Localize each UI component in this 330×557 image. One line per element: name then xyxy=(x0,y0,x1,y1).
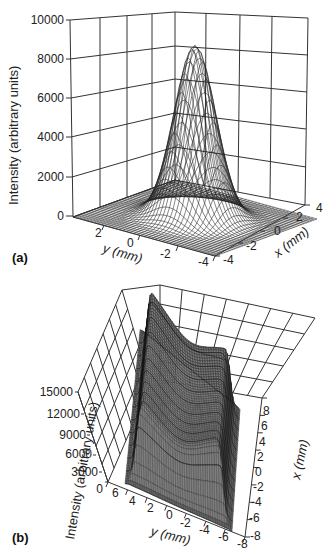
chart-a-ztick: 10000 xyxy=(31,13,65,27)
chart-b-ytick: -4 xyxy=(199,523,210,537)
chart-a-zlabel: Intensity (arbitrary units) xyxy=(6,66,21,205)
chart-b-ytick: -2 xyxy=(180,516,191,530)
chart-a-ztick: 4000 xyxy=(37,130,64,144)
chart-b-ytick: 0 xyxy=(166,508,173,522)
chart-b: 15000 12000 9000 6000 3000 0 Intensity (… xyxy=(12,285,315,551)
chart-b-ytick: 2 xyxy=(147,501,154,515)
chart-b-xtick: 4 xyxy=(259,435,266,449)
chart-a-ztick: 2000 xyxy=(37,170,64,184)
chart-b-xtick: 0 xyxy=(255,465,262,479)
chart-b-ytick: 4 xyxy=(129,494,136,508)
chart-a-ytick: 2 xyxy=(95,226,102,240)
chart-b-xtick: -2 xyxy=(253,480,264,494)
chart-a-xtick: -4 xyxy=(223,253,234,267)
chart-a-panel-label: (a) xyxy=(12,250,28,265)
chart-a-xtick: 2 xyxy=(296,210,303,224)
figure: 10000 8000 6000 4000 2000 0 Intensity (a… xyxy=(0,0,330,557)
chart-b-panel-label: (b) xyxy=(12,530,29,545)
chart-b-ytick: 6 xyxy=(112,486,119,500)
chart-a-xtick: 0 xyxy=(274,224,281,238)
chart-a-ylabel: y (mm) xyxy=(100,240,144,266)
chart-a-right-wall xyxy=(175,12,308,205)
chart-b-ztick: 0 xyxy=(96,482,103,496)
chart-b-xtick: -4 xyxy=(251,495,262,509)
chart-b-xtick: -6 xyxy=(249,511,260,525)
chart-b-xtick: 6 xyxy=(261,419,268,433)
chart-a-ytick: -4 xyxy=(198,255,209,269)
chart-b-xtick: -8 xyxy=(250,529,261,543)
chart-b-xtick: 8 xyxy=(263,404,270,418)
chart-b-ztick: 15000 xyxy=(40,385,74,399)
chart-a-ztick: 0 xyxy=(57,209,64,223)
chart-a-xtick: 4 xyxy=(316,201,323,215)
chart-a: 10000 8000 6000 4000 2000 0 Intensity (a… xyxy=(6,12,323,269)
chart-a-ytick: -2 xyxy=(160,247,171,261)
chart-b-ytick: -8 xyxy=(237,537,248,551)
chart-b-ztick: 12000 xyxy=(47,407,81,421)
chart-b-xlabel: x (mm) xyxy=(288,438,311,482)
chart-b-xtick: 2 xyxy=(257,450,264,464)
chart-a-xtick: -2 xyxy=(246,239,257,253)
chart-b-ytick: -6 xyxy=(218,530,229,544)
chart-a-ztick: 8000 xyxy=(37,52,64,66)
chart-a-ztick: 6000 xyxy=(37,91,64,105)
